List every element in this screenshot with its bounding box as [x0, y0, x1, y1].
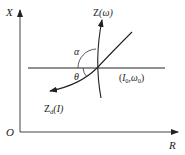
alpha-arc [78, 49, 96, 68]
alpha-label: α [74, 46, 80, 57]
z-omega-curve [98, 20, 102, 98]
x-axis-label: X [5, 6, 14, 18]
operating-point-label: (I0,ω0) [119, 73, 144, 84]
r-axis-label: R [168, 139, 176, 151]
theta-arc [83, 68, 87, 77]
origin-label: O [6, 126, 14, 138]
impedance-diagram: X R O Z(ω) α θ (I0,ω0) Zd(I) [0, 0, 185, 155]
theta-label: θ [74, 71, 79, 82]
z-omega-label: Z(ω) [93, 7, 114, 19]
z-d-i-label: Zd(I) [44, 103, 64, 115]
